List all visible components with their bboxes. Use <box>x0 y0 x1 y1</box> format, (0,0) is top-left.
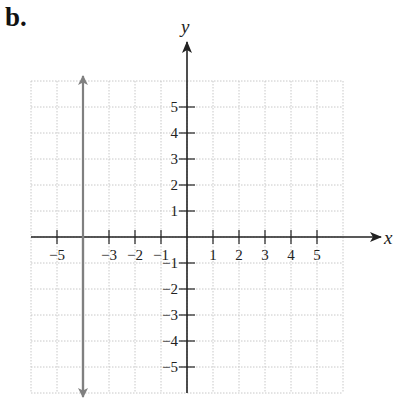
x-tick-label: 3 <box>261 247 269 263</box>
x-tick-label: 2 <box>235 247 243 263</box>
y-axis-label: y <box>179 16 190 37</box>
y-tick-label: −5 <box>162 359 178 375</box>
x-tick-label: −2 <box>127 247 143 263</box>
y-tick-label: 4 <box>171 125 179 141</box>
axes: xy <box>31 16 393 393</box>
y-tick-label: 5 <box>171 99 179 115</box>
x-tick-label: 4 <box>287 247 295 263</box>
y-tick-label: 2 <box>171 177 179 193</box>
x-axis-label: x <box>383 227 393 248</box>
coordinate-plane: xy −5−3−2−11234554321−1−2−3−4−5 <box>0 0 401 410</box>
y-tick-label: −1 <box>162 255 178 271</box>
y-tick-label: 1 <box>171 203 179 219</box>
x-tick-label: −5 <box>49 247 65 263</box>
x-tick-label: −3 <box>101 247 117 263</box>
y-tick-label: −3 <box>162 307 178 323</box>
x-tick-label: 5 <box>313 247 321 263</box>
y-tick-label: 3 <box>171 151 179 167</box>
y-tick-label: −4 <box>162 333 178 349</box>
y-tick-label: −2 <box>162 281 178 297</box>
x-tick-label: 1 <box>209 247 217 263</box>
